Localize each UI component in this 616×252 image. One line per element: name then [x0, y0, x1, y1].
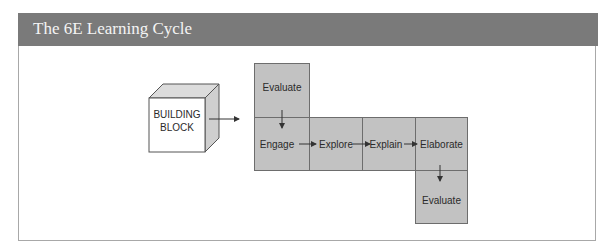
- flow-arrows: [0, 0, 616, 252]
